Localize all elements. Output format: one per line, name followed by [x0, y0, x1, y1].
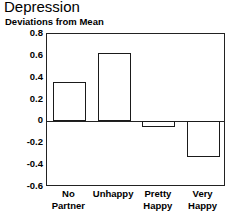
- x-tick-line: Pretty: [136, 188, 181, 200]
- x-tick-line: No: [46, 188, 91, 200]
- y-tick-label: 0.8: [1, 28, 43, 38]
- x-axis: NoPartnerUnhappyPrettyHappyVeryHappy: [46, 188, 225, 220]
- x-tick-label: VeryHappy: [180, 188, 225, 211]
- bar-1: [98, 53, 131, 122]
- y-tick-label: -0.4: [1, 159, 43, 169]
- y-tick-label: 0.4: [1, 72, 43, 82]
- y-tick-label: -0.2: [1, 137, 43, 147]
- x-tick-line: Happy: [180, 200, 225, 212]
- y-axis: 0.80.60.40.20-0.2-0.4-0.6: [0, 0, 43, 220]
- y-tick-label: 0.6: [1, 50, 43, 60]
- y-tick-label: 0.2: [1, 94, 43, 104]
- x-tick-line: Unhappy: [91, 188, 136, 200]
- x-tick-label: NoPartner: [46, 188, 91, 211]
- x-tick-label: PrettyHappy: [136, 188, 181, 211]
- bar-2: [142, 121, 175, 126]
- plot-area: [46, 33, 225, 186]
- depression-bar-chart: Depression Deviations from Mean 0.80.60.…: [0, 0, 233, 220]
- x-tick-label: Unhappy: [91, 188, 136, 200]
- y-tick-label: -0.6: [1, 181, 43, 191]
- bar-3: [187, 121, 220, 157]
- y-tick-label: 0: [1, 115, 43, 125]
- x-tick-line: Very: [180, 188, 225, 200]
- x-tick-line: Partner: [46, 200, 91, 212]
- bar-0: [53, 82, 86, 121]
- x-tick-line: Happy: [136, 200, 181, 212]
